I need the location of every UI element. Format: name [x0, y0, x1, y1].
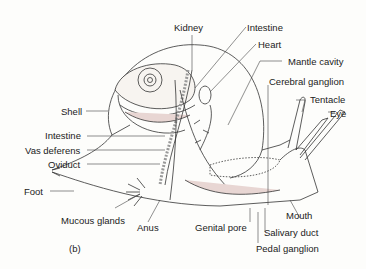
- label-mucous-glands: Mucous glands: [61, 216, 125, 226]
- label-shell: Shell: [61, 107, 82, 117]
- label-eye: Eye: [330, 109, 346, 119]
- label-foot: Foot: [24, 187, 43, 197]
- label-mantle-cavity: Mantle cavity: [288, 57, 343, 67]
- label-salivary-duct: Salivary duct: [264, 228, 318, 238]
- snail-anatomy-diagram: Kidney Intestine Heart Mantle cavity Cer…: [0, 0, 366, 269]
- label-heart: Heart: [258, 40, 281, 50]
- panel-label: (b): [69, 244, 81, 254]
- label-kidney: Kidney: [174, 23, 203, 33]
- label-tentacle: Tentacle: [310, 95, 345, 105]
- label-pedal-ganglion: Pedal ganglion: [256, 244, 319, 254]
- label-mouth: Mouth: [286, 211, 312, 221]
- label-intestine-top: Intestine: [247, 23, 283, 33]
- label-intestine-left: Intestine: [45, 131, 81, 141]
- label-vas-deferens: Vas deferens: [25, 146, 80, 156]
- label-cerebral-ganglion: Cerebral ganglion: [269, 77, 344, 87]
- label-oviduct: Oviduct: [48, 160, 80, 170]
- label-genital-pore: Genital pore: [195, 223, 247, 233]
- label-anus: Anus: [137, 223, 159, 233]
